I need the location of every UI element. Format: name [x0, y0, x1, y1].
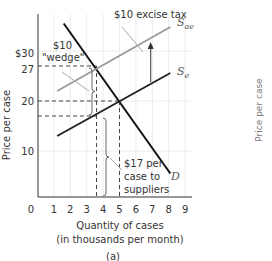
chart: 0123456789$30272010 SaeSeD Price per cas…	[0, 0, 272, 261]
y-tick-label: 10	[21, 146, 34, 157]
wedge-label-line1: $10	[53, 40, 72, 51]
suppliers-bracket	[103, 118, 109, 196]
wedge-label-line2: "wedge"	[42, 52, 84, 63]
annotations: SaeSeD	[62, 16, 194, 196]
panel-label: (a)	[106, 251, 120, 261]
x-tick-label: 9	[182, 204, 188, 215]
suppliers-leader-line	[110, 158, 122, 170]
x-tick-label: 1	[51, 204, 57, 215]
right-panel-y-axis-label: Price per case	[254, 78, 264, 142]
wedge-bracket	[89, 68, 95, 115]
x-tick-label: 6	[133, 204, 139, 215]
y-tick-label: 20	[21, 96, 34, 107]
x-axis-label-line2: (in thousands per month)	[56, 234, 184, 245]
x-tick-label: 3	[84, 204, 90, 215]
x-tick-label: 0	[28, 204, 34, 215]
suppliers-label-line3: suppliers	[124, 184, 169, 195]
excise-tax-label: $10 excise tax	[114, 9, 187, 20]
x-axis-label-line1: Quantity of cases	[76, 220, 163, 231]
curve-label-d: D	[170, 170, 180, 183]
curve-label-se: Se	[177, 65, 190, 80]
y-axis-label: Price per case	[1, 90, 12, 160]
suppliers-label-line1: $17 per	[124, 158, 164, 169]
y-tick-label: $30	[15, 48, 34, 59]
suppliers-label-line2: case to	[124, 171, 160, 182]
x-tick-label: 7	[149, 204, 155, 215]
curve-se	[57, 73, 170, 136]
x-tick-label: 4	[100, 204, 106, 215]
y-tick-label: 27	[21, 64, 34, 75]
x-tick-label: 2	[67, 204, 73, 215]
x-tick-label: 5	[116, 204, 122, 215]
x-tick-label: 8	[166, 204, 172, 215]
